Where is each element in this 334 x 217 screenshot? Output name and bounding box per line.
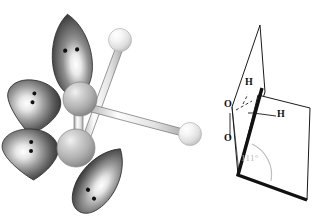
oxygen-lower — [57, 129, 95, 167]
hydrogen-upper — [109, 29, 132, 52]
orbital-model-panel — [0, 12, 201, 217]
oxygen-upper — [63, 82, 97, 116]
label-h-upper: H — [245, 76, 253, 87]
chemistry-figure: H H O O 111° — [0, 0, 334, 217]
dihedral-diagram-panel — [230, 25, 310, 200]
label-dihedral-angle: 111° — [241, 153, 259, 163]
label-h-lower: H — [277, 108, 285, 119]
label-o-upper: O — [224, 98, 232, 109]
hydrogen-lower — [179, 123, 202, 146]
label-o-lower: O — [224, 132, 232, 143]
lobe-lower-left — [2, 128, 59, 180]
